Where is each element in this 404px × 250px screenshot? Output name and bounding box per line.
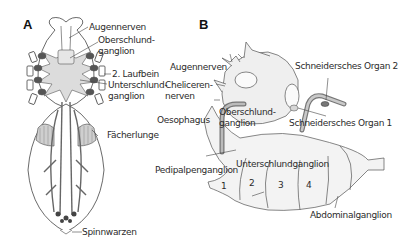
- label-a-augennerven: Augennerven: [89, 22, 146, 32]
- panel-letter-b: B: [199, 17, 208, 32]
- label-b-pedipalpenganglion: Pedipalpenganglion: [155, 165, 238, 175]
- label-b-segment-4: 4: [306, 180, 311, 190]
- label-b-schneider-2: Schneidersches Organ 2: [295, 61, 398, 71]
- panel-letter-a: A: [23, 17, 32, 32]
- label-b-segment-2: 2: [249, 178, 254, 188]
- label-b-segment-1: 1: [221, 181, 226, 191]
- label-b-cheliceren-1: Cheliceren-: [165, 80, 213, 90]
- label-a-laufbein: 2. Laufbein: [112, 69, 159, 79]
- label-a-spinnwarzen: Spinnwarzen: [82, 227, 137, 237]
- label-a-faecherlunge: Fächerlunge: [107, 130, 159, 140]
- label-b-unterschlundganglion: Unterschlundganglion: [236, 159, 329, 169]
- label-b-oberschlundganglion-1: Oberschlund-: [219, 107, 276, 117]
- label-b-augennerven: Augennerven: [170, 62, 227, 72]
- label-b-oesophagus: Oesophagus: [157, 115, 210, 125]
- label-a-unterschlundganglion-1: Unterschlund-: [108, 80, 167, 90]
- label-a-oberschlundganglion-1: Oberschlund-: [98, 35, 155, 45]
- panel-a-body: [27, 18, 105, 233]
- label-a-oberschlundganglion-2: ganglion: [98, 46, 134, 56]
- figure-canvas: A B Augennerven Oberschlund- ganglion 2.…: [0, 0, 404, 250]
- label-b-cheliceren-2: nerven: [165, 91, 195, 101]
- label-a-unterschlundganglion-2: ganglion: [108, 91, 144, 101]
- label-b-schneider-1: Schneidersches Organ 1: [289, 118, 392, 128]
- label-b-oberschlundganglion-2: ganglion: [219, 118, 255, 128]
- label-b-abdominalganglion: Abdominalganglion: [310, 210, 392, 220]
- label-b-segment-3: 3: [278, 180, 283, 190]
